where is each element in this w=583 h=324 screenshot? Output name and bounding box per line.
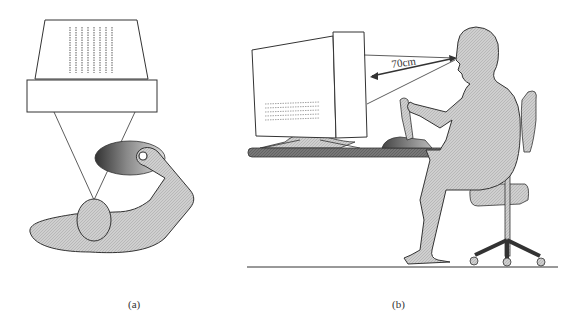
figure-canvas: 70cm (0, 0, 583, 324)
subject-head-icon (77, 199, 111, 241)
caption-panel-a: (a) (128, 298, 140, 310)
overhead-display-icon (27, 20, 157, 112)
panel-a (27, 20, 194, 253)
arrowhead-icon (370, 72, 378, 80)
sight-line (54, 112, 94, 200)
caption-panel-b: (b) (392, 298, 405, 310)
crt-monitor-icon (252, 32, 367, 148)
joystick-knob-icon (139, 152, 147, 160)
panel-b: 70cm (247, 27, 558, 267)
